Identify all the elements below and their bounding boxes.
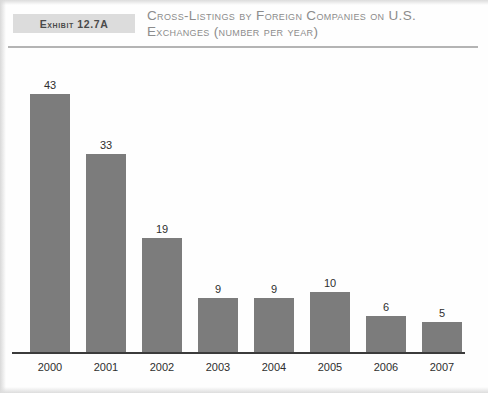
bar-group: 5	[414, 48, 470, 352]
bar-group: 33	[78, 48, 134, 352]
exhibit-number-label: Exhibit 12.7A	[40, 18, 109, 30]
bar-value-label: 9	[246, 283, 302, 295]
bar	[366, 316, 406, 352]
bar	[422, 322, 462, 352]
bar	[30, 94, 70, 352]
bar-value-label: 6	[358, 301, 414, 313]
plot-area: 433319991065	[0, 48, 488, 352]
bar-group: 10	[302, 48, 358, 352]
exhibit-figure: Exhibit 12.7A Cross-Listings by Foreign …	[0, 0, 488, 393]
x-axis-tick-label: 2007	[414, 361, 470, 373]
bar-value-label: 43	[22, 79, 78, 91]
bar-value-label: 9	[190, 283, 246, 295]
bar	[142, 238, 182, 352]
bar	[254, 298, 294, 352]
bar-value-label: 33	[78, 139, 134, 151]
bar-value-label: 19	[134, 223, 190, 235]
x-axis-tick-label: 2006	[358, 361, 414, 373]
bar-chart: 433319991065 200020012002200320042005200…	[0, 48, 488, 393]
x-axis-line	[12, 352, 465, 354]
exhibit-header: Exhibit 12.7A Cross-Listings by Foreign …	[0, 0, 488, 48]
bar	[310, 292, 350, 352]
bar-group: 19	[134, 48, 190, 352]
x-axis-tick-label: 2005	[302, 361, 358, 373]
bar-value-label: 10	[302, 277, 358, 289]
x-axis-tick-label: 2000	[22, 361, 78, 373]
bar-value-label: 5	[414, 307, 470, 319]
bar-group: 43	[22, 48, 78, 352]
x-axis-tick-label: 2004	[246, 361, 302, 373]
x-axis-tick-label: 2003	[190, 361, 246, 373]
bar-group: 6	[358, 48, 414, 352]
bar	[86, 154, 126, 352]
exhibit-number-badge: Exhibit 12.7A	[13, 14, 135, 33]
exhibit-title: Cross-Listings by Foreign Companies on U…	[147, 8, 482, 39]
bar-group: 9	[190, 48, 246, 352]
bar	[198, 298, 238, 352]
bar-group: 9	[246, 48, 302, 352]
x-axis-tick-label: 2002	[134, 361, 190, 373]
x-axis-tick-label: 2001	[78, 361, 134, 373]
